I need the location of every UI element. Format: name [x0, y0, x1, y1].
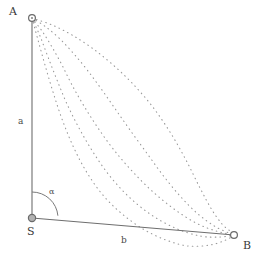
curve-path-4 — [32, 18, 234, 237]
curve-path-2 — [32, 18, 234, 235]
geometry-figure: A S B a b α — [0, 0, 261, 268]
curve-path-5 — [32, 18, 234, 246]
vertex-markers — [28, 15, 237, 239]
vertex-label-b: B — [243, 240, 251, 251]
vertex-label-s: S — [27, 226, 35, 237]
curve-path-1 — [32, 18, 234, 235]
vertex-marker-s — [28, 214, 35, 221]
vertex-marker-a-dot — [31, 17, 33, 19]
vertex-marker-b — [231, 232, 238, 239]
curve-path-3 — [32, 18, 234, 235]
angle-label-alpha: α — [49, 188, 54, 196]
figure-canvas — [0, 0, 261, 268]
side-label-b: b — [121, 236, 127, 245]
curve-group — [32, 18, 234, 246]
triangle-legs — [32, 18, 234, 235]
vertex-label-a: A — [9, 6, 17, 17]
side-label-a: a — [18, 117, 23, 126]
